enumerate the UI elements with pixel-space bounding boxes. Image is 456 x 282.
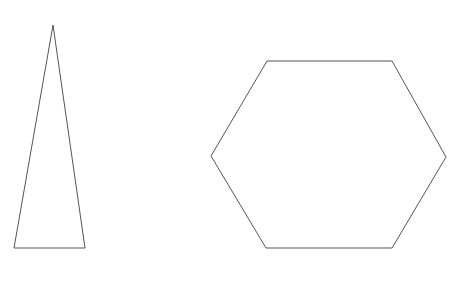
shapes-drawing <box>0 0 456 282</box>
shape-canvas <box>0 0 456 282</box>
canvas-background <box>0 0 456 282</box>
